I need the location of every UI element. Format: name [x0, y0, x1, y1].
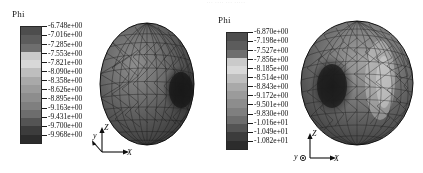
colorbar-swatch [21, 93, 41, 101]
axis-label-x: X [334, 155, 339, 163]
tick-label: -9.968e+00 [47, 131, 82, 139]
tick-label: -8.185e+00 [253, 65, 288, 73]
figure-canvas: ··· ···· ··· ····· Phi [0, 0, 423, 173]
colorbar-swatch [21, 44, 41, 52]
colorbar-swatch [21, 85, 41, 93]
y-axis-out-of-screen-marker [300, 155, 305, 160]
tick-label: -1.049e+01 [253, 128, 288, 136]
colorbar-swatch [21, 68, 41, 76]
colorbar-swatch [227, 124, 247, 132]
tick-label: -7.198e+00 [253, 37, 288, 45]
colorbar-swatch [21, 52, 41, 60]
colorbar-tick: -8.843e+00 [248, 82, 288, 91]
colorbar-tick: -7.285e+00 [42, 40, 82, 49]
colorbar-ticks-right: -6.870e+00 -7.198e+00 -7.527e+00 -7.856e… [248, 28, 288, 146]
colorbar-tick: -7.856e+00 [248, 55, 288, 64]
tick-label: -1.016e+01 [253, 119, 288, 127]
panel-left: Phi -6.748e+00 [0, 0, 212, 173]
tick-label: -8.090e+00 [47, 68, 82, 76]
colorbar-swatch [227, 116, 247, 124]
colorbar-swatch [21, 35, 41, 43]
colorbar-tick: -1.082e+01 [248, 137, 288, 146]
tick-label: -9.501e+00 [253, 101, 288, 109]
colorbar-swatch [21, 77, 41, 85]
axis-label-y: y [294, 153, 298, 161]
axis-label-y: y [93, 132, 97, 140]
tick-label: -9.163e+00 [47, 104, 82, 112]
colorbar-swatch [227, 50, 247, 58]
colorbar-swatch [227, 66, 247, 74]
colorbar-swatch [21, 27, 41, 35]
colorbar-swatch [21, 102, 41, 110]
colorbar-swatch [21, 118, 41, 126]
axes-triad-right: Z X y [294, 124, 342, 166]
tick-label: -7.285e+00 [47, 41, 82, 49]
tick-label: -8.843e+00 [253, 83, 288, 91]
colorbar-tick: -8.185e+00 [248, 64, 288, 73]
colorbar-title-right: Phi [218, 15, 231, 25]
axis-label-x: X [127, 149, 132, 157]
tick-label: -7.016e+00 [47, 31, 82, 39]
colorbar-swatch [227, 33, 247, 41]
axis-label-z: Z [104, 124, 108, 132]
colorbar-swatch [227, 91, 247, 99]
colorbar-tick: -9.968e+00 [42, 131, 82, 140]
axes-triad-left: Z X y [92, 118, 140, 160]
tick-label: -8.626e+00 [47, 86, 82, 94]
colorbar-swatch [227, 74, 247, 82]
colorbar-right: -6.870e+00 -7.198e+00 -7.527e+00 -7.856e… [226, 32, 288, 150]
colorbar-swatch [227, 58, 247, 66]
colorbar-swatch [227, 99, 247, 107]
colorbar-swatch [21, 135, 41, 143]
tick-label: -8.358e+00 [47, 77, 82, 85]
colorbar-tick: -7.527e+00 [248, 46, 288, 55]
colorbar-tick: -7.821e+00 [42, 58, 82, 67]
colorbar-swatches-right [226, 32, 248, 150]
tick-label: -7.527e+00 [253, 47, 288, 55]
colorbar-title-left: Phi [12, 9, 25, 19]
colorbar-swatch [227, 83, 247, 91]
colorbar-tick: -8.358e+00 [42, 76, 82, 85]
colorbar-left: -6.748e+00 -7.016e+00 -7.285e+00 -7.553e… [20, 26, 82, 144]
tick-label: -8.514e+00 [253, 74, 288, 82]
colorbar-swatch [227, 132, 247, 140]
tick-label: -9.830e+00 [253, 110, 288, 118]
colorbar-swatch [227, 108, 247, 116]
colorbar-tick: -8.514e+00 [248, 73, 288, 82]
tick-label: -6.870e+00 [253, 28, 288, 36]
colorbar-swatch [21, 110, 41, 118]
colorbar-tick: -8.090e+00 [42, 67, 82, 76]
tick-label: -9.700e+00 [47, 122, 82, 130]
axis-label-z: Z [312, 130, 316, 138]
colorbar-swatch [227, 41, 247, 49]
tick-label: -1.082e+01 [253, 137, 288, 145]
colorbar-swatches-left [20, 26, 42, 144]
colorbar-swatch [227, 141, 247, 149]
tick-label: -7.553e+00 [47, 50, 82, 58]
tick-label: -9.172e+00 [253, 92, 288, 100]
panel-right: Phi -6.870e+00 [212, 0, 423, 173]
tick-label: -7.821e+00 [47, 59, 82, 67]
colorbar-swatch [21, 126, 41, 134]
colorbar-tick: -7.198e+00 [248, 37, 288, 46]
colorbar-tick: -7.016e+00 [42, 31, 82, 40]
tick-label: -9.431e+00 [47, 113, 82, 121]
tick-label: -6.748e+00 [47, 22, 82, 30]
colorbar-tick: -7.553e+00 [42, 49, 82, 58]
tick-label: -7.856e+00 [253, 56, 288, 64]
colorbar-swatch [21, 60, 41, 68]
colorbar-ticks-left: -6.748e+00 -7.016e+00 -7.285e+00 -7.553e… [42, 22, 82, 140]
tick-label: -8.895e+00 [47, 95, 82, 103]
